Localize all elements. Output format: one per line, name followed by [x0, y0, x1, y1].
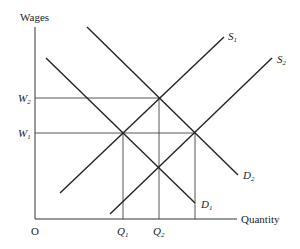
labor-market-diagram: Wages Quantity O W2 W1 Q1 Q2 S1 S2 D1 D2	[0, 0, 300, 249]
d1-label: D1	[200, 198, 212, 212]
supply-curve-s2	[110, 58, 272, 214]
q2-label: Q2	[153, 225, 165, 239]
origin-label: O	[31, 225, 39, 237]
s1-label: S1	[228, 30, 237, 44]
y-axis-label: Wages	[20, 11, 49, 23]
q1-label: Q1	[117, 225, 128, 239]
x-axis-label: Quantity	[241, 213, 280, 225]
supply-curve-s1	[60, 37, 224, 193]
d2-label: D2	[242, 169, 255, 183]
demand-curve-d2	[87, 27, 238, 175]
w1-label: W1	[18, 127, 31, 141]
s2-label: S2	[277, 53, 287, 67]
demand-curve-d1	[46, 58, 195, 203]
w2-label: W2	[18, 92, 31, 106]
